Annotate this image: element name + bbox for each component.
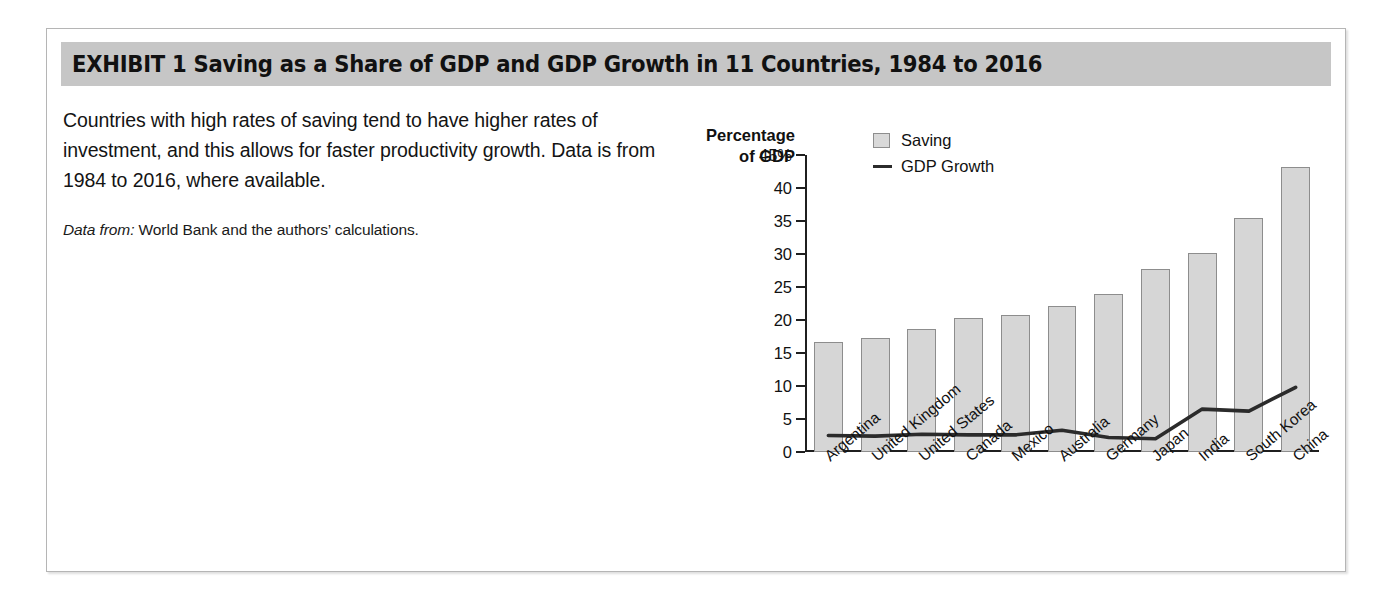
y-axis-tick-label: 15 xyxy=(774,344,792,363)
y-axis-tick xyxy=(796,352,805,354)
y-axis-tick xyxy=(796,154,805,156)
x-axis-label: China xyxy=(1289,425,1332,465)
y-axis-title-line1: Percentage xyxy=(687,125,795,146)
y-axis-tick-label: 10 xyxy=(774,377,792,396)
y-axis-tick-label: 25 xyxy=(774,278,792,297)
y-axis-tick xyxy=(796,187,805,189)
legend-label-saving: Saving xyxy=(901,131,951,150)
description-column: Countries with high rates of saving tend… xyxy=(63,105,673,239)
source-text: World Bank and the authors’ calculations… xyxy=(139,221,419,238)
source-note: Data from: World Bank and the authors’ c… xyxy=(63,221,673,239)
y-axis-tick xyxy=(796,385,805,387)
exhibit-panel: EXHIBIT 1 Saving as a Share of GDP and G… xyxy=(46,28,1346,572)
x-axis-label: India xyxy=(1195,430,1232,465)
y-axis-tick xyxy=(796,451,805,453)
x-axis-label: Australia xyxy=(1055,412,1113,465)
legend-swatch-icon xyxy=(873,133,890,148)
y-axis-tick xyxy=(796,286,805,288)
y-axis-tick-label: 5 xyxy=(783,410,792,429)
y-axis-tick xyxy=(796,418,805,420)
chart: Percentage of GDP Saving GDP Growth 0510… xyxy=(687,89,1335,559)
y-axis-tick xyxy=(796,319,805,321)
x-axis-label: Mexico xyxy=(1008,420,1057,465)
y-axis-tick-label: 0 xyxy=(783,443,792,462)
y-axis-tick xyxy=(796,253,805,255)
exhibit-header-band: EXHIBIT 1 Saving as a Share of GDP and G… xyxy=(61,42,1331,86)
source-label: Data from: xyxy=(63,221,134,238)
y-axis-tick-label: 20 xyxy=(774,311,792,330)
y-axis-tick-label: 45% xyxy=(759,146,792,165)
description-text: Countries with high rates of saving tend… xyxy=(63,105,673,195)
legend-item-saving: Saving xyxy=(873,127,994,153)
y-axis-tick-label: 30 xyxy=(774,245,792,264)
y-axis-tick-label: 35 xyxy=(774,212,792,231)
plot-area: 051015202530354045% ArgentinaUnited King… xyxy=(805,155,1319,452)
y-axis-tick xyxy=(796,220,805,222)
x-axis-labels: ArgentinaUnited KingdomUnited StatesCana… xyxy=(805,155,1319,452)
y-axis-tick-label: 40 xyxy=(774,179,792,198)
exhibit-title: EXHIBIT 1 Saving as a Share of GDP and G… xyxy=(61,51,1042,77)
